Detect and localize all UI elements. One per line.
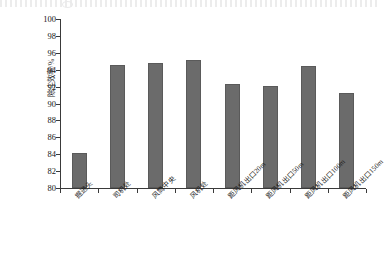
x-axis-category-label: 风机处 [189, 180, 210, 201]
x-axis-category-label: 距风机出口100m [304, 158, 347, 201]
x-axis-category-label: 距风机出口50m [265, 160, 305, 200]
x-axis-category-label: 距风机出口150m [342, 158, 385, 201]
x-axis-category-label: 掘进头 [74, 180, 95, 201]
x-axis-category-label: 司机处 [112, 180, 133, 201]
x-axis-category-label: 距风机出口20m [227, 160, 267, 200]
x-axis-category-label: 风筒中央 [151, 175, 177, 201]
